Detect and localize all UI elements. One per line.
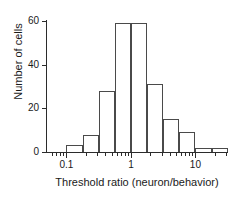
histogram-bar [99, 91, 115, 152]
histogram-figure: 0204060 0.1110 Number of cells Threshold… [0, 0, 236, 198]
x-tick-minor [63, 153, 64, 156]
y-tick-mark [42, 108, 46, 109]
x-tick-label: 10 [180, 160, 210, 170]
x-tick-minor [162, 153, 163, 156]
x-tick-minor [192, 153, 193, 156]
x-tick-minor [150, 153, 151, 156]
x-tick-minor [52, 153, 53, 156]
x-tick-minor [112, 153, 113, 156]
x-tick-minor [128, 153, 129, 156]
x-axis-title: Threshold ratio (neuron/behavior) [38, 176, 236, 188]
x-tick-minor [170, 153, 171, 156]
x-tick-label: 1 [116, 160, 146, 170]
x-tick-minor [215, 153, 216, 156]
histogram-bar [195, 148, 211, 152]
y-tick-mark [42, 65, 46, 66]
x-axis-line [46, 152, 228, 153]
x-tick-minor [181, 153, 182, 156]
histogram-bar [179, 132, 195, 152]
histogram-bar [66, 145, 82, 152]
x-tick-major [195, 153, 196, 158]
x-tick-minor [185, 153, 186, 156]
x-tick-minor [105, 153, 106, 156]
histogram-bar [212, 148, 228, 152]
x-tick-major [66, 153, 67, 158]
histogram-bar [115, 23, 131, 152]
x-tick-major [131, 153, 132, 158]
x-tick-minor [60, 153, 61, 156]
y-tick-label: 0 [15, 147, 39, 157]
x-tick-minor [117, 153, 118, 156]
x-tick-minor [189, 153, 190, 156]
x-tick-minor [86, 153, 87, 156]
x-tick-minor [121, 153, 122, 156]
x-tick-label: 0.1 [51, 160, 81, 170]
histogram-bar [131, 23, 147, 152]
x-tick-minor [125, 153, 126, 156]
histogram-bar [147, 84, 163, 152]
histogram-bar [83, 135, 99, 152]
y-axis-title: Number of cells [13, 0, 24, 132]
y-tick-mark [42, 21, 46, 22]
histogram-bar [163, 119, 179, 152]
x-tick-minor [226, 153, 227, 156]
y-tick-mark [42, 152, 46, 153]
x-tick-minor [56, 153, 57, 156]
x-tick-minor [176, 153, 177, 156]
x-tick-minor [97, 153, 98, 156]
